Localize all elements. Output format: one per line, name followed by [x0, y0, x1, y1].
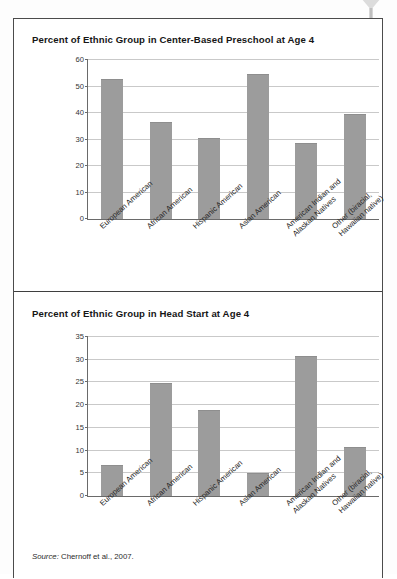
source-citation: Chernoff et al., 2007.	[61, 552, 134, 561]
figure-center-based-preschool: Percent of Ethnic Group in Center-Based …	[14, 19, 382, 290]
y-axis-tick-label: 15	[76, 422, 84, 431]
figure-2-axes: 05101520253035 European AmericanAfrican …	[87, 337, 379, 497]
y-axis-tick-label: 0	[80, 214, 84, 223]
y-axis-tick-label: 35	[76, 332, 84, 341]
y-axis-tick-label: 10	[76, 187, 84, 196]
figure-2-x-axis-labels: European AmericanAfrican AmericanHispani…	[101, 496, 379, 576]
figure-1-x-axis-labels: European AmericanAfrican AmericanHispani…	[101, 219, 379, 299]
bar	[101, 79, 123, 219]
y-axis-tick-label: 30	[76, 134, 84, 143]
y-axis-tick-label: 10	[76, 445, 84, 454]
y-axis-tick-label: 20	[76, 400, 84, 409]
y-axis-tick-label: 0	[80, 491, 84, 500]
y-axis-tick-label: 30	[76, 354, 84, 363]
source-note: Source: Chernoff et al., 2007.	[32, 552, 134, 561]
y-axis-tick-label: 50	[76, 81, 84, 90]
figure-2-plot-area: 05101520253035 European AmericanAfrican …	[74, 337, 379, 497]
figure-head-start: Percent of Ethnic Group in Head Start at…	[14, 291, 382, 579]
source-label: Source:	[32, 552, 59, 561]
y-axis-tick-label: 60	[76, 55, 84, 64]
figure-1-plot-area: 0102030405060 European AmericanAfrican A…	[74, 60, 379, 220]
figure-2-title: Percent of Ethnic Group in Head Start at…	[32, 308, 249, 319]
y-axis-tick-label: 40	[76, 108, 84, 117]
y-axis-tick-label: 25	[76, 377, 84, 386]
figure-1-axes: 0102030405060 European AmericanAfrican A…	[87, 60, 379, 220]
figure-1-title: Percent of Ethnic Group in Center-Based …	[32, 34, 314, 45]
figure-page-frame: Percent of Ethnic Group in Center-Based …	[13, 18, 383, 578]
y-axis-tick-label: 5	[80, 468, 84, 477]
y-axis-tick-label: 20	[76, 161, 84, 170]
